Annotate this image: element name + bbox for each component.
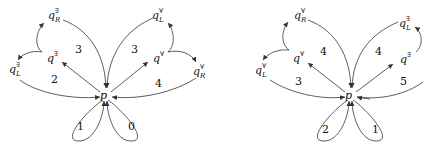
automaton-diagrams: p q∃R q∃ q∃L q∀L q∀ q∀R 3 3 2 4 1 0: [0, 0, 423, 150]
node-p: p: [100, 89, 107, 102]
svg-text:∀: ∀: [262, 62, 267, 70]
region-label: 3: [75, 43, 82, 56]
svg-text:∀: ∀: [159, 7, 164, 15]
node-q-exists: q∃: [47, 50, 58, 65]
svg-text:q: q: [152, 9, 159, 22]
region-label: 0: [128, 120, 135, 133]
svg-text:q: q: [255, 64, 262, 77]
svg-text:q: q: [47, 52, 54, 65]
node-q-exists: q∃: [400, 51, 411, 66]
svg-text:R: R: [300, 16, 307, 24]
svg-text:∀: ∀: [200, 63, 205, 71]
svg-text:R: R: [54, 16, 61, 24]
region-label: 2: [322, 123, 329, 136]
svg-text:∀: ∀: [301, 7, 306, 15]
edge-q-forall-to-qL-forall: [168, 23, 173, 52]
edge-offscreen-to-p: [357, 82, 423, 98]
svg-text:∃: ∃: [54, 50, 58, 58]
edge-q-forall-to-qR-forall: [168, 51, 196, 62]
svg-text:∀: ∀: [160, 50, 165, 58]
edge-qL-forall-to-p: [107, 18, 153, 88]
svg-text:q: q: [9, 63, 16, 76]
edge-p-to-q-forall: [111, 62, 148, 92]
svg-text:q: q: [48, 9, 55, 22]
left-diagram: p q∃R q∃ q∃L q∀L q∀ q∀R 3 3 2 4 1 0: [9, 7, 206, 141]
svg-text:q: q: [400, 53, 407, 66]
region-label: 4: [375, 45, 382, 58]
node-p: p: [345, 89, 352, 102]
edge-q-exists-to-qL-exists: [18, 51, 42, 60]
svg-text:R: R: [199, 72, 206, 80]
edge-q-forall-to-qR-forall: [283, 22, 289, 50]
svg-text:q: q: [153, 52, 160, 65]
node-qL-forall: q∀L: [255, 62, 267, 79]
node-qL-exists: q∃L: [399, 15, 411, 32]
svg-text:L: L: [261, 71, 267, 79]
edge-q-exists-to-qR-exists: [37, 23, 44, 52]
edge-p-to-q-exists: [62, 62, 100, 92]
region-label: 2: [51, 73, 58, 86]
svg-text:q: q: [293, 52, 300, 65]
edge-qL-forall-to-p: [270, 80, 345, 98]
svg-text:L: L: [158, 16, 164, 24]
svg-text:∃: ∃: [16, 61, 20, 69]
svg-text:q: q: [294, 9, 301, 22]
edge-q-forall-to-qL-forall: [263, 50, 289, 60]
right-diagram: p q∀R q∀ q∀L q∃L q∃ 4 4 3 5 2 1: [255, 7, 423, 141]
region-label: 1: [77, 120, 84, 133]
svg-text:q: q: [193, 65, 200, 78]
region-label: 4: [155, 77, 162, 90]
node-qR-exists: q∃R: [48, 7, 61, 24]
node-qL-forall: q∀L: [152, 7, 164, 24]
node-qR-forall: q∀R: [193, 63, 206, 80]
edge-p-to-q-exists: [356, 64, 393, 92]
edge-q-exists-to-qL-exists: [415, 27, 421, 52]
svg-text:L: L: [405, 24, 411, 32]
svg-text:∃: ∃: [407, 51, 411, 59]
edge-qR-exists-to-p: [63, 20, 106, 88]
edge-p-to-q-forall: [308, 63, 345, 92]
svg-text:∀: ∀: [300, 50, 305, 58]
region-label: 3: [295, 75, 302, 88]
svg-text:q: q: [399, 17, 406, 30]
edge-qR-forall-to-p: [308, 20, 351, 88]
node-qR-forall: q∀R: [294, 7, 307, 24]
region-label: 3: [131, 43, 138, 56]
region-label: 1: [372, 123, 379, 136]
region-label: 5: [400, 75, 407, 88]
node-q-forall: q∀: [293, 50, 305, 65]
node-q-forall: q∀: [153, 50, 165, 65]
svg-text:∃: ∃: [55, 7, 59, 15]
node-qL-exists: q∃L: [9, 61, 21, 78]
region-label: 4: [320, 45, 327, 58]
svg-text:∃: ∃: [406, 15, 410, 23]
svg-text:L: L: [15, 70, 21, 78]
